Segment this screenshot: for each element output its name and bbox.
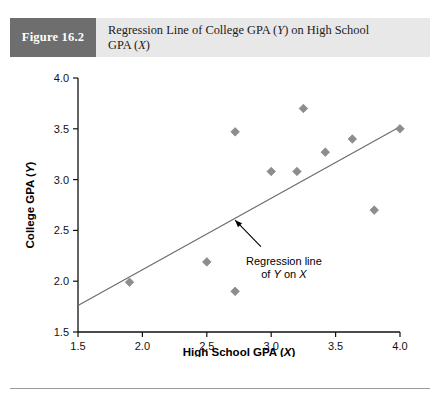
y-axis-title: College GPA (Y) (24, 161, 36, 248)
data-point-marker (321, 148, 330, 157)
figure-title-part-1: Regression Line of College GPA ( (108, 23, 277, 37)
figure-number-label: Figure 16.2 (22, 30, 84, 45)
regression-line (78, 127, 400, 306)
figure-title-container: Regression Line of College GPA (Y) on Hi… (96, 18, 430, 57)
figure-header: Figure 16.2 Regression Line of College G… (10, 18, 430, 57)
y-tick-label: 2.5 (54, 224, 69, 236)
x-tick-label: 1.5 (70, 340, 85, 352)
data-point-marker (267, 167, 276, 176)
data-point-marker (348, 135, 357, 144)
data-point-marker (396, 125, 405, 134)
figure-title-part-3: GPA ( (108, 38, 138, 52)
y-tick-label: 1.5 (54, 326, 69, 338)
x-axis-title: High School GPA (X) (183, 346, 296, 357)
y-tick-label: 3.5 (54, 123, 69, 135)
scatter-plot: 1.52.02.53.03.54.0 1.52.02.53.03.54.0 Re… (0, 57, 440, 357)
x-tick-label: 4.0 (392, 340, 407, 352)
data-point-marker (203, 258, 212, 267)
annotation-text-line-1: Regression line (246, 255, 322, 267)
figure-title-var-x: X (138, 38, 146, 52)
figure-title: Regression Line of College GPA (Y) on Hi… (108, 23, 369, 52)
footer-divider (10, 388, 430, 389)
data-point-marker (293, 167, 302, 176)
figure-title-part-4: ) (146, 38, 150, 52)
annotation-text-line-2: of Y on X (261, 268, 307, 280)
regression-line-annotation: Regression line of Y on X (235, 220, 322, 279)
data-point-marker (370, 206, 379, 215)
data-point-marker (299, 104, 308, 113)
y-axis-ticks: 1.52.02.53.03.54.0 (54, 72, 78, 338)
data-point-marker (231, 128, 240, 137)
y-tick-label: 2.0 (54, 275, 69, 287)
y-tick-label: 4.0 (54, 72, 69, 84)
y-tick-label: 3.0 (54, 174, 69, 186)
x-tick-label: 2.0 (135, 340, 150, 352)
plot-canvas: 1.52.02.53.03.54.0 1.52.02.53.03.54.0 Re… (0, 57, 440, 357)
figure-number-box: Figure 16.2 (10, 18, 96, 57)
x-tick-label: 3.5 (328, 340, 343, 352)
figure-title-part-2: ) on High School (284, 23, 369, 37)
data-point-marker (231, 287, 240, 296)
